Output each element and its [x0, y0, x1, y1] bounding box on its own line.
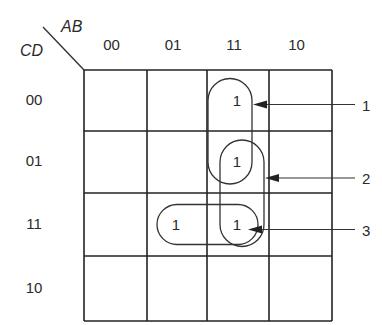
- row-header: 00: [26, 91, 43, 108]
- arrowhead-icon: [253, 101, 267, 109]
- column-header: 10: [288, 36, 305, 53]
- group-label: 1: [362, 97, 370, 114]
- row-variable-label: CD: [20, 42, 44, 59]
- column-header: 00: [103, 36, 120, 53]
- cell-value: 1: [172, 216, 180, 233]
- cell-value: 1: [233, 216, 241, 233]
- group-label: 2: [362, 170, 370, 187]
- row-header: 11: [26, 215, 42, 232]
- cell-value: 1: [233, 153, 241, 170]
- cell-value: 1: [233, 92, 241, 109]
- row-headers: 00011110: [26, 91, 43, 296]
- column-headers: 00011110: [103, 36, 305, 53]
- arrowhead-icon: [265, 174, 279, 182]
- column-variable-label: AB: [60, 18, 83, 35]
- row-header: 10: [26, 279, 43, 296]
- karnaugh-map: AB CD 00011110 00011110 1111 123: [0, 0, 382, 325]
- group-pointers: 123: [248, 97, 370, 239]
- column-header: 01: [165, 36, 182, 53]
- group-label: 3: [362, 222, 370, 239]
- row-header: 01: [26, 152, 43, 169]
- column-header: 11: [226, 36, 242, 53]
- arrowhead-icon: [248, 226, 262, 234]
